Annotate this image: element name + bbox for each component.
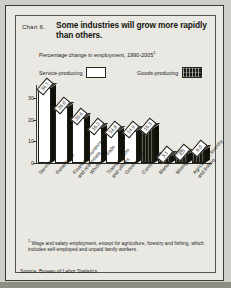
footnote-marker: 1: [28, 238, 30, 243]
bar: 34.7: [38, 88, 51, 163]
legend-item-service: Service-producing: [39, 67, 106, 78]
y-axis-tick-mark: [33, 163, 36, 164]
y-axis-tick-mark: [33, 98, 36, 99]
legend-swatch-service-icon: [86, 67, 106, 78]
chart-number: Chart 6.: [22, 23, 45, 30]
chart-subtitle: Percentage change in employment, 1990-20…: [39, 50, 214, 58]
bar-face: [38, 88, 51, 163]
legend-item-goods: Goods-producing: [137, 67, 202, 78]
chart-subtitle-text: Percentage change in employment, 1990-20…: [39, 52, 153, 58]
y-axis-tick-mark: [33, 120, 36, 121]
subtitle-footnote-marker: 1: [153, 50, 155, 55]
bar: 26.0: [55, 107, 68, 163]
y-axis-tick-mark: [33, 141, 36, 142]
chart-legend: Service-producing Goods-producing: [39, 67, 217, 80]
chart-footnote: 1 Wage and salary employment, except for…: [28, 238, 208, 254]
category-labels: ServicesRetail tradeFinance, insurancean…: [38, 172, 218, 230]
page-title: Some industries will grow more rapidly t…: [56, 20, 212, 40]
legend-label-goods: Goods-producing: [137, 70, 178, 76]
y-axis-line: [36, 85, 37, 163]
legend-swatch-goods-icon: [182, 67, 202, 78]
bar-face: [55, 107, 68, 163]
footnote-text: Wage and salary employment, except for a…: [28, 241, 204, 253]
page-edge: [0, 282, 231, 288]
legend-label-service: Service-producing: [39, 70, 82, 76]
chart-page: Chart 6. Some industries will grow more …: [0, 0, 231, 288]
chart-frame: Chart 6. Some industries will grow more …: [5, 5, 224, 281]
chart-source: Source: Bureau of Labor Statistics: [20, 268, 97, 274]
